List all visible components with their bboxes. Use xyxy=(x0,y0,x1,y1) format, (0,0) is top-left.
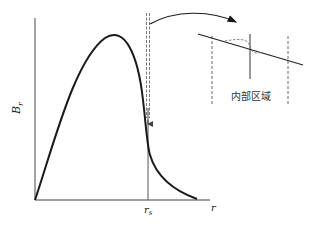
axes xyxy=(35,18,210,200)
svg-text:Br: Br xyxy=(10,101,25,115)
br-curve xyxy=(35,35,197,200)
inset-label: 内部区域 xyxy=(231,90,271,102)
rs-label: rs xyxy=(144,204,153,217)
x-axis-label: r xyxy=(211,202,217,213)
zoom-arrow-icon xyxy=(150,13,236,24)
dashed-region-marker xyxy=(147,13,150,124)
br-profile-diagram: Br rs r 内部区域 xyxy=(0,0,314,226)
y-axis-label: Br xyxy=(10,101,25,115)
inset-internal-region: 内部区域 xyxy=(198,34,303,106)
